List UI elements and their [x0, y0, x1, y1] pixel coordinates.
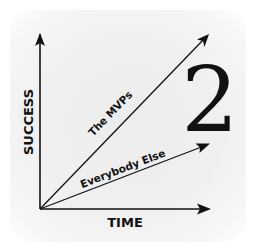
- figure-number: 2: [181, 47, 238, 152]
- x-axis-label: TIME: [107, 215, 143, 230]
- everybody-else-line: [40, 146, 204, 209]
- growth-diagram: SUCCESS TIME The MVPs Everybody Else 2: [0, 0, 253, 251]
- mvp-line-label: The MVPs: [86, 88, 135, 138]
- everybody-else-line-label: Everybody Else: [78, 147, 166, 190]
- y-axis-label: SUCCESS: [21, 89, 36, 155]
- mvp-line: [40, 38, 205, 209]
